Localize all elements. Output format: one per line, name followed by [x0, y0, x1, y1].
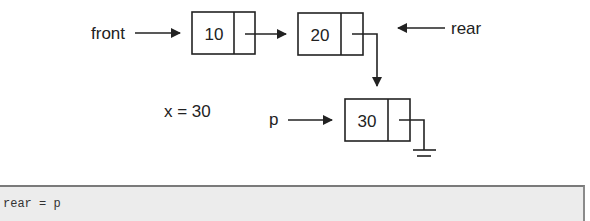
code-block: rear = p: [0, 185, 585, 221]
rear-label: rear: [451, 19, 482, 38]
node-value: 30: [358, 112, 377, 131]
node-10: 10: [192, 12, 255, 54]
node-value: 10: [205, 25, 224, 44]
node-value: 20: [311, 26, 330, 45]
p-label: p: [269, 110, 278, 129]
code-line: rear = p: [3, 197, 61, 211]
linked-list-diagram: front 10 20 rear x = 30 p 30: [0, 0, 590, 185]
front-label: front: [91, 24, 125, 43]
variable-x-label: x = 30: [164, 102, 211, 121]
